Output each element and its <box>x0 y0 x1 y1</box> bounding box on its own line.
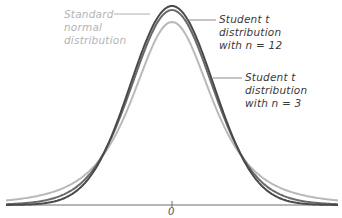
x-axis-zero-label: 0 <box>168 206 174 217</box>
label-line: Standard <box>64 8 126 21</box>
label-line: distribution <box>219 26 282 39</box>
label-student-t-n3: Student t distribution with n = 3 <box>245 71 307 110</box>
label-standard-normal: Standard normal distribution <box>64 8 126 47</box>
label-line: with n = 12 <box>219 39 282 52</box>
label-line: Student t <box>219 13 282 26</box>
label-student-t-n12: Student t distribution with n = 12 <box>219 13 282 52</box>
label-line: distribution <box>64 34 126 47</box>
label-line: distribution <box>245 84 307 97</box>
label-line: Student t <box>245 71 307 84</box>
label-line: with n = 3 <box>245 97 307 110</box>
label-line: normal <box>64 21 126 34</box>
curve-light-gray <box>6 22 338 200</box>
